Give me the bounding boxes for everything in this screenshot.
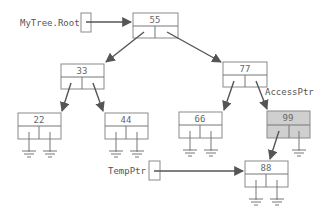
node-value: 66 <box>195 114 206 124</box>
access-pointer-label: AccessPtr <box>265 87 314 97</box>
node-value: 88 <box>261 163 272 173</box>
tree-node-22: 22 <box>18 113 61 157</box>
tree-node-88: 88 <box>245 161 288 205</box>
tree-node-44: 44 <box>105 113 148 157</box>
tree-node-77: 77 <box>223 62 267 87</box>
node-value: 22 <box>34 115 45 125</box>
tree-node-33: 33 <box>61 64 104 89</box>
node-value: 77 <box>240 64 251 74</box>
tree-diagram: MyTree.Root 55 33 77 AccessPtr 22 <box>0 0 330 218</box>
root-pointer-label: MyTree.Root <box>20 18 80 28</box>
temp-pointer-label: TempPtr <box>108 166 147 176</box>
tree-node-66: 66 <box>179 112 222 156</box>
temp-pointer: TempPtr <box>108 161 243 180</box>
node-value: 99 <box>283 113 294 123</box>
node-value: 55 <box>150 15 161 25</box>
node-value: 44 <box>121 115 132 125</box>
root-pointer: MyTree.Root <box>20 13 131 32</box>
edge-55-33 <box>106 32 144 62</box>
node-value: 33 <box>77 66 88 76</box>
edge-55-77 <box>167 32 221 62</box>
